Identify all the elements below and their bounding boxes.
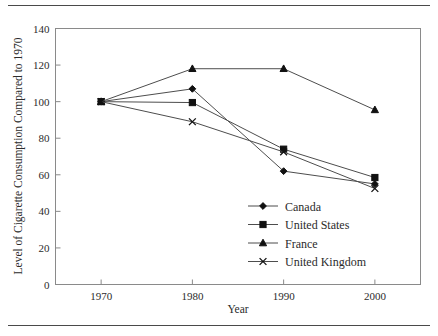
y-tick-label: 20 <box>39 242 51 254</box>
legend-item-united-kingdom: United Kingdom <box>248 255 367 269</box>
legend-item-canada: Canada <box>248 200 322 214</box>
y-tick-label: 40 <box>39 205 51 217</box>
legend-label: United Kingdom <box>285 255 367 269</box>
x-tick-label: 1970 <box>90 290 113 302</box>
series-line <box>101 102 375 178</box>
marker-square <box>189 99 195 105</box>
legend-item-united-states: United States <box>248 218 350 232</box>
marker-triangle <box>371 106 378 113</box>
x-tick-label: 2000 <box>364 290 387 302</box>
x-tick-label: 1990 <box>273 290 296 302</box>
marker-diamond <box>260 203 267 210</box>
y-tick-label: 140 <box>33 23 50 35</box>
x-tick-label: 1980 <box>181 290 204 302</box>
series-united-kingdom <box>98 98 379 192</box>
legend-item-france: France <box>248 237 318 251</box>
y-tick-label: 60 <box>39 169 51 181</box>
y-tick-label: 120 <box>33 59 50 71</box>
series-united-states <box>98 99 378 181</box>
marker-square <box>372 174 378 180</box>
line-chart: 020406080100120140 1970198019902000 Year… <box>0 0 438 336</box>
marker-cross <box>189 118 196 125</box>
series-france <box>98 65 379 113</box>
y-axis-tick-labels: 020406080100120140 <box>33 23 50 291</box>
y-tick-label: 0 <box>44 279 50 291</box>
marker-square <box>260 221 266 227</box>
chart-figure: 020406080100120140 1970198019902000 Year… <box>0 0 438 336</box>
y-axis-ticks <box>56 29 61 285</box>
series-line <box>101 69 375 110</box>
y-axis-title: Level of Cigarette Consumption Compared … <box>12 37 25 274</box>
y-tick-label: 80 <box>39 132 51 144</box>
x-axis-tick-labels: 1970198019902000 <box>90 290 386 302</box>
legend-label: Canada <box>285 200 322 214</box>
legend-label: France <box>285 237 318 251</box>
series-line <box>101 102 375 189</box>
x-axis-title: Year <box>227 303 248 315</box>
x-axis-ticks <box>101 280 375 285</box>
data-series-group <box>98 65 379 192</box>
y-tick-label: 100 <box>33 96 50 108</box>
plot-frame <box>56 29 421 285</box>
chart-legend: CanadaUnited StatesFranceUnited Kingdom <box>248 200 367 270</box>
legend-label: United States <box>285 218 350 232</box>
